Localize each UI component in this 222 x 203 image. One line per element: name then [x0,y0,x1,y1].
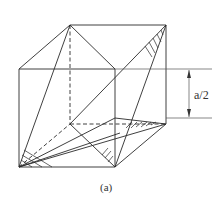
construction-lines [19,25,166,167]
dimension-marker: a/2 [115,69,212,118]
dimension-label: a/2 [194,88,209,102]
cube-diagram: a/2 (a) [0,0,222,203]
figure-caption: (a) [100,181,113,194]
